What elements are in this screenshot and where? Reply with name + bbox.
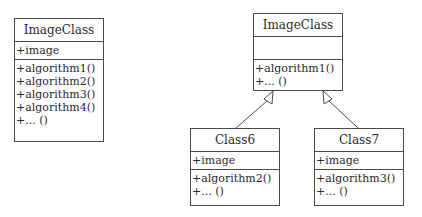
generalization-arrows xyxy=(0,0,422,217)
inheritance-line-class6 xyxy=(236,100,268,128)
inheritance-line-class7 xyxy=(328,100,358,128)
